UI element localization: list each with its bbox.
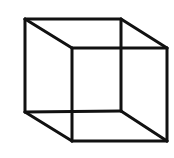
necker-cube-diagram: [0, 0, 174, 158]
cube-edge-back-bottom-left-to-front-bottom-left: [25, 112, 72, 141]
cube-edge-back-bottom-right-to-front-bottom-right: [121, 111, 167, 141]
cube-edge-back-top-right-to-front-top-right: [121, 19, 167, 48]
cube-edges: [25, 19, 167, 141]
cube-edge-back-top-left-to-front-top-left: [25, 19, 72, 48]
